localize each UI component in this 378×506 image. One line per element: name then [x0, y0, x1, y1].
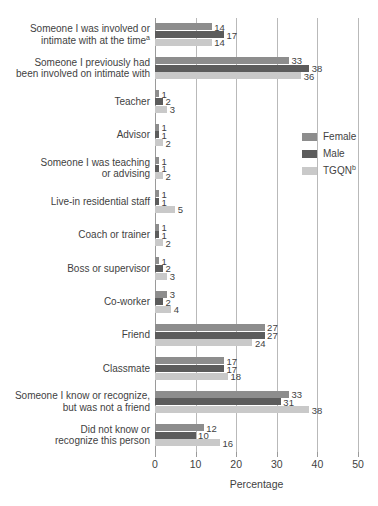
bar-male [155, 298, 163, 305]
bar-group: 123 [155, 90, 358, 112]
bar-value-label: 2 [166, 139, 171, 149]
bar-female [155, 90, 159, 97]
bar-value-label: 5 [178, 205, 183, 215]
bar-tgqn [155, 406, 309, 413]
bar-tgqn [155, 339, 252, 346]
bar-tgqn [155, 373, 228, 380]
bar-male [155, 165, 159, 172]
bar-female [155, 224, 159, 231]
bar-value-label: 18 [231, 372, 242, 382]
bar-male [155, 398, 281, 405]
bar-value-label: 17 [227, 31, 238, 41]
bar-chart: Someone I was involved orintimate with a… [0, 0, 378, 506]
bar-female [155, 391, 289, 398]
bar-value-label: 24 [255, 339, 266, 349]
bar-value-label: 27 [267, 331, 278, 341]
bar-tgqn [155, 439, 220, 446]
bar-value-label: 3 [170, 105, 175, 115]
category-label: Coach or trainer [0, 229, 150, 241]
category-label: Someone I know or recognize,but was not … [0, 390, 150, 413]
bar-group: 272724 [155, 324, 358, 346]
bar-tgqn [155, 273, 167, 280]
bar-male [155, 365, 224, 372]
x-tick-label: 10 [190, 459, 202, 470]
bar-female [155, 57, 289, 64]
bar-tgqn [155, 39, 212, 46]
category-label: Someone I was teachingor advising [0, 157, 150, 180]
category-label: Did not know orrecognize this person [0, 424, 150, 447]
x-axis-title: Percentage [155, 478, 358, 490]
category-label: Live-in residential staff [0, 196, 150, 208]
legend-swatch-male [302, 150, 317, 158]
x-tick-label: 30 [271, 459, 283, 470]
category-label: Classmate [0, 363, 150, 375]
category-label: Someone I previously hadbeen involved on… [0, 57, 150, 80]
gridline-50 [358, 18, 359, 452]
category-axis-labels: Someone I was involved orintimate with a… [0, 18, 150, 452]
x-tick-30 [277, 452, 278, 457]
bar-value-label: 14 [214, 38, 225, 48]
bar-group: 324 [155, 291, 358, 313]
bar-female [155, 124, 159, 131]
x-tick-20 [236, 452, 237, 457]
bar-value-label: 4 [174, 305, 179, 315]
bar-group: 123 [155, 257, 358, 279]
x-tick-label: 40 [312, 459, 324, 470]
bar-male [155, 231, 159, 238]
legend-label: Male [323, 148, 345, 160]
bar-group: 115 [155, 190, 358, 212]
bar-female [155, 190, 159, 197]
bar-group: 333138 [155, 391, 358, 413]
bar-value-label: 36 [304, 72, 315, 82]
bar-tgqn [155, 172, 163, 179]
bar-value-label: 2 [166, 172, 171, 182]
category-label: Boss or supervisor [0, 263, 150, 275]
bar-tgqn [155, 106, 167, 113]
bar-tgqn [155, 306, 171, 313]
bar-tgqn [155, 139, 163, 146]
bar-female [155, 424, 204, 431]
category-label: Co-worker [0, 296, 150, 308]
plot-area: 1417143338361231121121151121233242727241… [155, 18, 358, 452]
x-tick-label: 0 [152, 459, 158, 470]
bar-group: 333836 [155, 57, 358, 79]
bar-male [155, 198, 159, 205]
bar-female [155, 357, 224, 364]
category-label: Someone I was involved orintimate with a… [0, 23, 150, 46]
x-tick-40 [317, 452, 318, 457]
bar-male [155, 65, 309, 72]
bar-group: 171718 [155, 357, 358, 379]
x-tick-label: 20 [230, 459, 242, 470]
footnote-marker: b [352, 164, 356, 171]
category-label: Teacher [0, 96, 150, 108]
x-tick-0 [155, 452, 156, 457]
category-label: Advisor [0, 129, 150, 141]
legend-swatch-female [302, 133, 317, 141]
legend-swatch-tgqn [302, 167, 317, 175]
bar-male [155, 432, 196, 439]
bar-female [155, 157, 159, 164]
bar-tgqn [155, 206, 175, 213]
legend-label: Female [323, 131, 356, 143]
bar-tgqn [155, 239, 163, 246]
bar-value-label: 2 [166, 239, 171, 249]
bar-group: 121016 [155, 424, 358, 446]
legend-label: TGQNb [323, 165, 356, 177]
x-axis: 01020304050 Percentage [155, 452, 358, 492]
x-tick-50 [358, 452, 359, 457]
x-tick-10 [196, 452, 197, 457]
bar-value-label: 3 [170, 272, 175, 282]
bar-male [155, 98, 163, 105]
bar-female [155, 257, 159, 264]
footnote-marker: a [146, 33, 150, 40]
bar-male [155, 131, 159, 138]
bar-female [155, 324, 265, 331]
category-label: Friend [0, 329, 150, 341]
bar-value-label: 16 [222, 439, 233, 449]
bar-male [155, 332, 265, 339]
bar-group: 141714 [155, 23, 358, 45]
x-tick-label: 50 [352, 459, 364, 470]
bar-male [155, 265, 163, 272]
bar-value-label: 38 [312, 406, 323, 416]
bar-tgqn [155, 72, 301, 79]
